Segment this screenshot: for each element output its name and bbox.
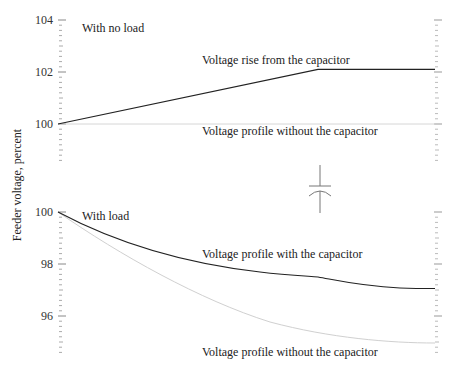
tick-label-100-top: 100 [35,117,53,131]
bottom-panel-title: With load [82,209,129,223]
top-panel: 104 102 100 With no load Voltage rise fr… [35,13,442,160]
tick-label-98: 98 [41,257,53,271]
tick-label-102: 102 [35,65,53,79]
tick-label-104: 104 [35,13,53,27]
y-axis-label: Feeder voltage, percent [10,128,24,241]
top-left-axis-ticks [58,20,66,160]
top-label-voltage-rise: Voltage rise from the capacitor [202,53,350,67]
bottom-panel: 100 98 96 With load Voltage profile with… [35,205,442,359]
tick-label-96: 96 [41,309,53,323]
capacitor-symbol-icon [309,165,331,213]
bottom-left-axis-ticks [58,212,66,352]
top-panel-title: With no load [82,21,144,35]
bottom-right-axis-ticks [434,212,442,352]
top-label-without-capacitor: Voltage profile without the capacitor [202,124,378,138]
bottom-label-without-capacitor: Voltage profile without the capacitor [202,345,378,359]
bottom-label-with-capacitor: Voltage profile with the capacitor [202,247,362,261]
top-series-voltage-rise [58,69,435,124]
bottom-series-without-capacitor [58,212,435,343]
feeder-voltage-chart: Feeder voltage, percent [0,0,453,370]
top-right-axis-ticks [434,20,442,160]
tick-label-100-bottom: 100 [35,205,53,219]
